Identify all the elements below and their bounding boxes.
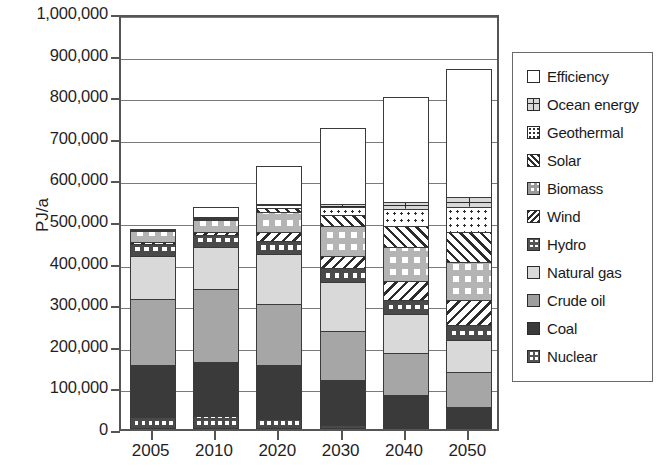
gridline: [121, 350, 497, 351]
legend-label: Efficiency: [547, 68, 609, 85]
legend-label: Wind: [547, 208, 580, 225]
bar-segment-biomass: [321, 226, 365, 255]
bar-segment-natural-gas: [384, 314, 428, 353]
legend-item-biomass[interactable]: Biomass: [527, 174, 652, 202]
y-axis-tick: [111, 140, 120, 142]
bar-segment-wind: [257, 232, 301, 240]
legend-label: Solar: [547, 152, 581, 169]
legend-swatch-coal-icon: [527, 322, 540, 335]
x-axis-tick: [151, 431, 153, 440]
bar-segment-solar: [447, 232, 491, 262]
bar-segment-coal: [384, 395, 428, 427]
legend-label: Geothermal: [547, 124, 623, 141]
bar-segment-ocean-energy: [447, 197, 491, 206]
bar-segment-nuclear: [321, 425, 365, 429]
legend-item-hydro[interactable]: Hydro: [527, 230, 652, 258]
gridline: [121, 183, 497, 184]
legend-item-solar[interactable]: Solar: [527, 146, 652, 174]
bar-segment-crude-oil: [447, 372, 491, 407]
bar-segment-hydro: [257, 241, 301, 254]
bar-segment-coal: [321, 380, 365, 425]
bar-segment-crude-oil: [384, 353, 428, 395]
legend-swatch-hydro-icon: [527, 238, 540, 251]
y-axis-tick-label: 900,000: [4, 46, 108, 65]
x-axis-tick: [404, 431, 406, 440]
gridline: [121, 267, 497, 268]
bar-segment-efficiency: [194, 207, 238, 217]
y-axis-tick: [111, 348, 120, 350]
y-axis-tick-label: 0: [4, 420, 108, 439]
bar-segment-natural-gas: [131, 256, 175, 299]
x-axis-tick: [467, 431, 469, 440]
bar-2010[interactable]: [193, 207, 239, 429]
legend-swatch-oil-icon: [527, 294, 540, 307]
y-axis-tick: [111, 431, 120, 433]
bar-segment-natural-gas: [257, 254, 301, 304]
legend-item-oil[interactable]: Crude oil: [527, 286, 652, 314]
legend-label: Coal: [547, 320, 577, 337]
gridline: [121, 142, 497, 143]
y-axis-tick: [111, 57, 120, 59]
gridline: [121, 391, 497, 392]
bar-segment-natural-gas: [194, 247, 238, 289]
bar-segment-crude-oil: [321, 331, 365, 380]
gridline: [121, 308, 497, 309]
legend-item-coal[interactable]: Coal: [527, 314, 652, 342]
legend-swatch-geothermal-icon: [527, 126, 540, 139]
legend-item-nuclear[interactable]: Nuclear: [527, 342, 652, 370]
legend-item-efficiency[interactable]: Efficiency: [527, 62, 652, 90]
bar-segment-crude-oil: [131, 299, 175, 365]
legend-label: Nuclear: [547, 348, 597, 365]
gridline: [121, 59, 497, 60]
bar-segment-nuclear: [257, 419, 301, 429]
legend-item-ocean[interactable]: Ocean energy: [527, 90, 652, 118]
bar-segment-biomass: [384, 247, 428, 281]
bar-2040[interactable]: [383, 97, 429, 429]
y-axis-tick: [111, 265, 120, 267]
bar-segment-geothermal: [447, 207, 491, 233]
y-axis-tick: [111, 181, 120, 183]
bar-2005[interactable]: [130, 229, 176, 429]
bar-segment-wind: [447, 300, 491, 324]
legend-item-geothermal[interactable]: Geothermal: [527, 118, 652, 146]
y-axis-tick-label: 200,000: [4, 337, 108, 356]
bar-segment-biomass: [194, 220, 238, 232]
bar-segment-natural-gas: [447, 340, 491, 372]
y-axis-tick: [111, 223, 120, 225]
x-axis-tick-label: 2050: [427, 441, 507, 461]
bar-segment-biomass: [257, 212, 301, 232]
bar-segment-efficiency: [257, 166, 301, 204]
bar-segment-nuclear: [131, 417, 175, 429]
stacked-bar-chart: 0100,000200,000300,000400,000500,000600,…: [0, 0, 657, 470]
y-axis-tick-label: 100,000: [4, 378, 108, 397]
gridline: [121, 225, 497, 226]
gridline: [121, 100, 497, 101]
bar-segment-solar: [384, 226, 428, 247]
bar-segment-nuclear: [384, 427, 428, 429]
bar-2020[interactable]: [256, 166, 302, 429]
bar-segment-wind: [384, 281, 428, 300]
legend-swatch-nuclear-icon: [527, 350, 540, 363]
bar-segment-biomass: [447, 262, 491, 300]
bar-segment-coal: [131, 365, 175, 417]
y-axis-tick: [111, 15, 120, 17]
bar-2050[interactable]: [446, 69, 492, 429]
x-axis-tick: [214, 431, 216, 440]
bar-segment-crude-oil: [257, 304, 301, 366]
legend-item-wind[interactable]: Wind: [527, 202, 652, 230]
bar-segment-geothermal: [321, 207, 365, 214]
gridline: [121, 17, 497, 18]
bar-segment-wind: [321, 256, 365, 268]
legend-label: Biomass: [547, 180, 603, 197]
x-axis-tick: [341, 431, 343, 440]
bar-segment-nuclear: [194, 416, 238, 429]
bar-segment-hydro: [384, 300, 428, 315]
bar-segment-natural-gas: [321, 282, 365, 331]
legend-label: Hydro: [547, 236, 586, 253]
legend-item-natgas[interactable]: Natural gas: [527, 258, 652, 286]
y-axis-tick-label: 400,000: [4, 254, 108, 273]
bar-segment-hydro: [321, 268, 365, 282]
legend-swatch-biomass-icon: [527, 182, 540, 195]
bar-2030[interactable]: [320, 128, 366, 430]
y-axis-tick-label: 300,000: [4, 295, 108, 314]
